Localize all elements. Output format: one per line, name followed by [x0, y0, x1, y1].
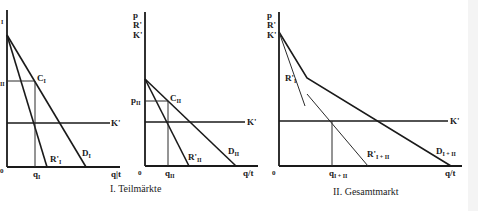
- mc-label: K': [111, 118, 121, 128]
- mc-label: K': [450, 116, 460, 126]
- price-label: pII: [131, 95, 141, 106]
- origin-label: 0: [138, 169, 142, 177]
- x-axis-label: q|t: [111, 169, 121, 179]
- price-label-fragment: II: [0, 81, 5, 87]
- price-discrimination-diagram: I II CI K' R'I DI 0 qI q|t p R' K' pII C…: [0, 0, 478, 211]
- aggregate-marginal-revenue-curve: [307, 94, 368, 166]
- panel-3: p R' K' R'I K' R'I + II DI + II 0 qI + I…: [267, 10, 462, 179]
- point-c-label: CII: [170, 93, 182, 104]
- point-c-label: CI: [37, 73, 47, 84]
- demand-label: DI + II: [436, 146, 457, 157]
- caption-right: II. Gesamtmarkt: [333, 186, 399, 197]
- y-axis-label-fragment: I: [1, 19, 4, 25]
- quantity-label: qII: [165, 168, 175, 179]
- y-axis-label-k: K': [267, 30, 277, 40]
- y-axis-label-p: p: [133, 10, 138, 20]
- origin-label: 0: [0, 167, 4, 175]
- x-axis-label: q/t: [445, 168, 456, 178]
- y-axis-label-k: K': [133, 30, 143, 40]
- mr-label: R'I + II: [367, 149, 390, 160]
- mc-label: K': [247, 117, 257, 127]
- quantity-label: qI: [33, 169, 41, 180]
- y-axis-label-p: p: [267, 10, 272, 20]
- mr-label: R'I: [50, 154, 62, 165]
- aggregate-demand-curve: [279, 32, 451, 166]
- quantity-label: qI + II: [329, 168, 348, 179]
- x-axis-label: q/t: [243, 168, 254, 178]
- demand-label: DI: [82, 148, 92, 159]
- caption-left: I. Teilmärkte: [110, 183, 162, 194]
- demand-label: DII: [228, 146, 240, 157]
- mr-label: R'II: [188, 152, 202, 163]
- panel-2: p R' K' pII CII K' R'II DII 0 qII q/t: [131, 10, 258, 179]
- marginal-revenue-curve: [7, 35, 47, 167]
- demand-curve: [7, 35, 86, 167]
- y-axis-label-r: R': [267, 20, 276, 30]
- origin-label: 0: [272, 169, 276, 177]
- mr1-label: R'I: [285, 73, 297, 84]
- panel-1: I II CI K' R'I DI 0 qI q|t: [0, 10, 121, 180]
- y-axis-label-r: R': [133, 20, 142, 30]
